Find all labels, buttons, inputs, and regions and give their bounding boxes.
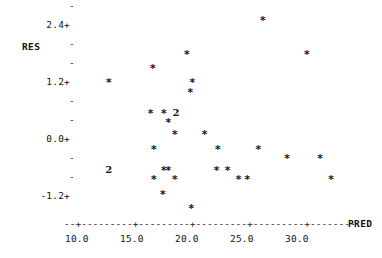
data-point-marker: * [303, 48, 310, 59]
data-point-marker: * [105, 77, 112, 88]
data-point-marker: * [328, 174, 335, 185]
data-point-marker: * [159, 188, 166, 199]
data-point-marker: * [317, 153, 324, 164]
data-point-overlap-marker: 2 [105, 165, 112, 175]
character-scatter-plot: RES 2.4+1.2+0.0+-1.2+ ------- --+-------… [0, 0, 382, 258]
data-point-marker: * [224, 164, 231, 175]
data-point-marker: * [187, 86, 194, 97]
data-point-marker: * [213, 164, 220, 175]
data-point-marker: * [201, 129, 208, 140]
y-axis-minor-tick: - [69, 39, 75, 49]
data-point-marker: * [165, 117, 172, 128]
data-point-marker: * [149, 62, 156, 73]
x-axis-line: --+---------+---------+---------+-------… [64, 219, 356, 229]
y-axis-minor-tick: - [69, 1, 75, 11]
y-axis-minor-tick: - [69, 96, 75, 106]
y-axis-minor-tick: - [69, 115, 75, 125]
x-tick-label: 30.0 [285, 234, 309, 244]
y-axis-title: RES [22, 42, 40, 52]
data-point-marker: * [184, 48, 191, 59]
x-tick-label: 10.0 [65, 234, 89, 244]
x-tick-label: 20.0 [175, 234, 199, 244]
data-point-marker: * [188, 202, 195, 213]
y-axis-minor-tick: - [69, 172, 75, 182]
data-point-marker: * [171, 129, 178, 140]
y-tick-label: 1.2+ [0, 77, 70, 87]
data-point-overlap-marker: 2 [172, 108, 179, 118]
data-point-marker: * [151, 143, 158, 154]
data-point-marker: * [151, 174, 158, 185]
data-point-marker: * [255, 143, 262, 154]
data-point-marker: * [284, 153, 291, 164]
y-tick-label: 0.0+ [0, 134, 70, 144]
data-point-marker: * [235, 174, 242, 185]
x-tick-label: 15.0 [120, 234, 144, 244]
y-tick-label: 2.4+ [0, 20, 70, 30]
y-tick-label: -1.2+ [0, 191, 70, 201]
data-point-marker: * [147, 107, 154, 118]
y-axis-minor-tick: - [69, 58, 75, 68]
x-axis-title: PRED [348, 219, 372, 229]
data-point-marker: * [244, 174, 251, 185]
x-tick-label: 25.0 [230, 234, 254, 244]
data-point-marker: * [259, 15, 266, 26]
y-axis-minor-tick: - [69, 153, 75, 163]
data-point-marker: * [214, 143, 221, 154]
data-point-marker: * [171, 174, 178, 185]
